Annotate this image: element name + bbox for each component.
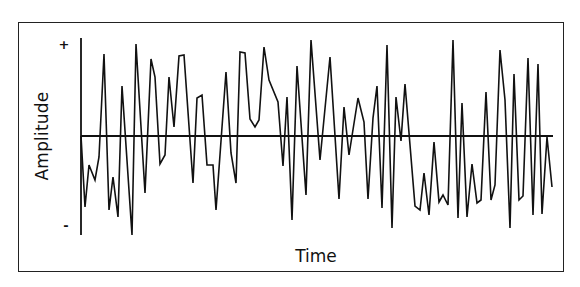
x-axis-label: Time xyxy=(295,246,337,266)
y-tick-plus: + xyxy=(59,37,70,52)
y-axis-label: Amplitude xyxy=(32,92,52,181)
y-tick-minus: - xyxy=(63,218,68,233)
waveform-plot xyxy=(0,0,580,287)
waveform-line xyxy=(81,40,552,235)
